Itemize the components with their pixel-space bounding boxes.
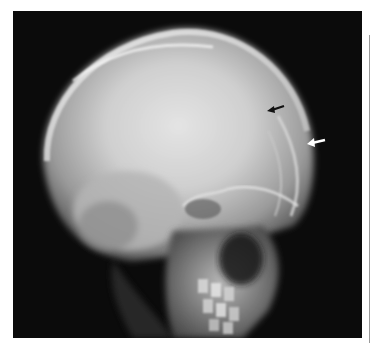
page-edge-line	[369, 35, 370, 343]
skull-base	[73, 171, 183, 251]
face	[166, 226, 279, 338]
xray-image	[13, 11, 362, 338]
skull-radiograph	[13, 11, 362, 338]
